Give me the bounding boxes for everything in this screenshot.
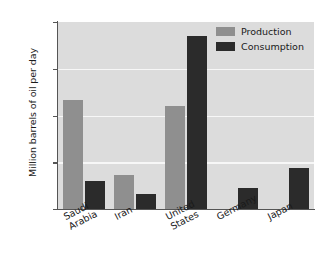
legend-swatch-production <box>216 27 235 36</box>
y-tick-mark <box>53 162 57 163</box>
y-axis-line <box>57 21 58 210</box>
bar-consumption-iran <box>136 194 156 209</box>
bar-production-iran <box>114 175 134 209</box>
bar-production-saudi-arabia <box>63 100 83 209</box>
gridline <box>58 162 314 164</box>
bar-consumption-united-states <box>187 36 207 209</box>
legend-item-consumption: Consumption <box>216 40 304 52</box>
bar-consumption-japan <box>289 168 309 209</box>
y-axis-title: Million barrels of oil per day <box>27 18 38 208</box>
y-tick-mark <box>53 116 57 117</box>
chart-legend: ProductionConsumption <box>216 25 304 55</box>
bar-chart-figure: Million barrels of oil per day 05101520 … <box>0 0 331 259</box>
bar-production-united-states <box>165 106 185 209</box>
gridline <box>58 116 314 118</box>
y-tick-mark <box>53 69 57 70</box>
legend-label-production: Production <box>241 26 292 37</box>
gridline <box>58 69 314 71</box>
legend-label-consumption: Consumption <box>241 41 304 52</box>
y-tick-mark <box>53 22 57 23</box>
legend-item-production: Production <box>216 25 304 37</box>
y-tick-mark <box>53 209 57 210</box>
legend-swatch-consumption <box>216 42 235 51</box>
